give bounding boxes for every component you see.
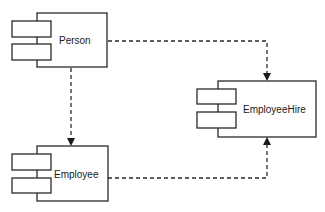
- component-employee[interactable]: Employee: [12, 146, 108, 201]
- arrowhead-icon: [263, 137, 271, 145]
- component-tab-icon: [197, 112, 236, 128]
- component-tab-icon: [12, 44, 51, 60]
- component-tab-icon: [12, 21, 51, 37]
- dependency-person-to-employeehire[interactable]: [108, 41, 271, 81]
- dependency-person-to-employee[interactable]: [67, 68, 75, 146]
- arrowhead-icon: [67, 138, 75, 146]
- component-tab-icon: [197, 89, 236, 104]
- component-tab-icon: [12, 154, 51, 170]
- component-tab-icon: [12, 178, 51, 193]
- component-label: Person: [59, 35, 91, 46]
- arrowhead-icon: [263, 73, 271, 81]
- component-diagram: Person Employee EmployeeHire: [0, 0, 325, 212]
- component-employeehire[interactable]: EmployeeHire: [197, 81, 316, 137]
- component-person[interactable]: Person: [12, 13, 107, 67]
- component-label: EmployeeHire: [243, 104, 306, 115]
- component-label: Employee: [54, 169, 99, 180]
- dependency-employee-to-employeehire[interactable]: [108, 137, 271, 178]
